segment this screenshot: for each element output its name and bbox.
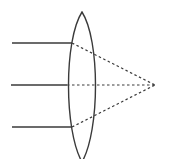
lens-diagram: [0, 0, 175, 159]
refracted-ray-bottom: [72, 85, 155, 127]
refracted-ray-top: [72, 43, 155, 85]
